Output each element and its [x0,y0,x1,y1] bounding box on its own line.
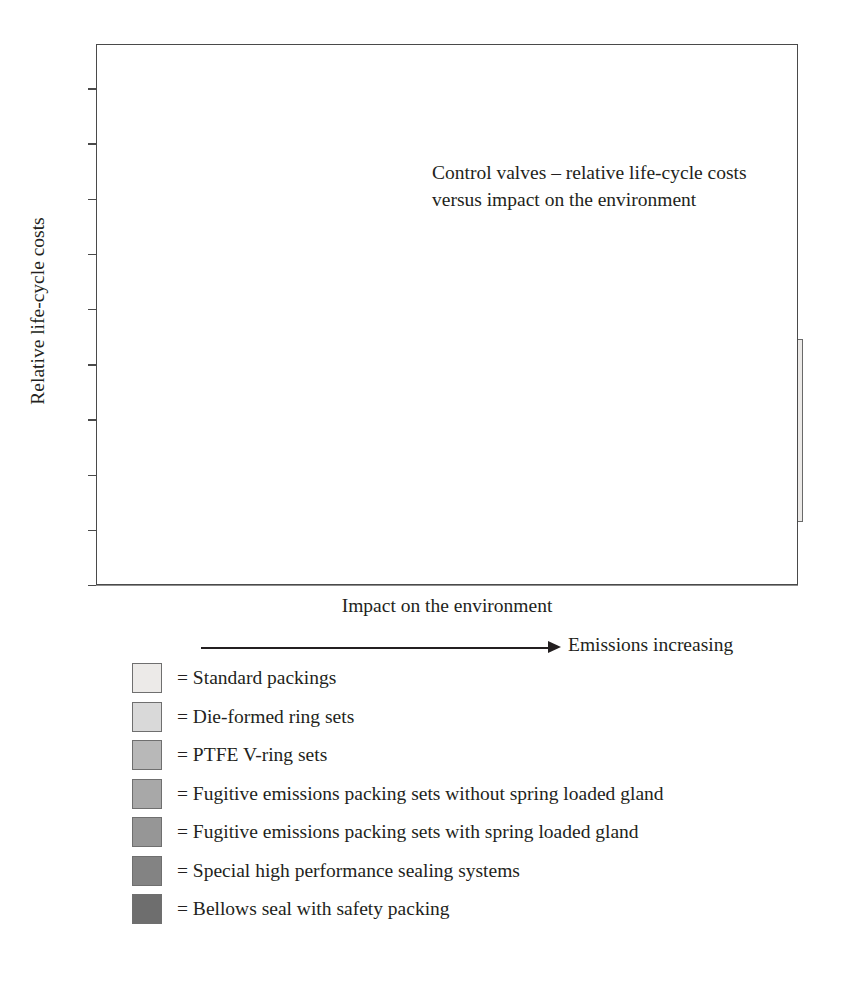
legend-swatch [132,779,162,809]
y-tick-mark [88,364,96,365]
legend-item: = Standard packings [132,660,832,699]
legend-label: = Standard packings [177,664,336,692]
legend-item: = PTFE V-ring sets [132,737,832,776]
legend-item: = Bellows seal with safety packing [132,891,832,930]
legend-swatch [132,663,162,693]
y-tick-mark [88,254,96,255]
arrow-head-icon [548,641,561,653]
x-axis-title: Impact on the environment [96,595,798,617]
legend-item: = Die-formed ring sets [132,699,832,738]
chart-page: Relative life-cycle costs 0123456789 Con… [0,0,843,988]
legend-swatch [132,856,162,886]
plot-area: Control valves – relative life-cycle cos… [96,44,798,585]
chart-title: Control valves – relative life-cycle cos… [432,159,832,213]
chart-title-line-1: Control valves – relative life-cycle cos… [432,159,832,186]
y-tick-mark [88,199,96,200]
legend-swatch [132,817,162,847]
y-tick-mark [88,88,96,89]
legend-item: = Fugitive emissions packing sets with s… [132,814,832,853]
gridline-horizontal [96,585,798,586]
arrow-label: Emissions increasing [568,634,733,656]
legend-label: = Die-formed ring sets [177,703,354,731]
y-axis-ticks: 0123456789 [0,0,96,988]
legend-swatch [132,702,162,732]
chart-title-line-2: versus impact on the environment [432,186,832,213]
legend-label: = Fugitive emissions packing sets withou… [177,780,664,808]
y-tick-mark [88,143,96,144]
legend-item: = Fugitive emissions packing sets withou… [132,776,832,815]
legend-label: = Special high performance sealing syste… [177,857,520,885]
arrow-line-icon [201,647,553,649]
y-tick-mark [88,419,96,420]
legend-label: = Bellows seal with safety packing [177,895,450,923]
legend: = Standard packings= Die-formed ring set… [132,660,832,930]
legend-label: = PTFE V-ring sets [177,741,327,769]
y-tick-mark [88,530,96,531]
y-tick-mark [88,475,96,476]
legend-swatch [132,894,162,924]
legend-item: = Special high performance sealing syste… [132,853,832,892]
plot-frame [96,44,798,585]
legend-swatch [132,740,162,770]
y-tick-mark [88,309,96,310]
legend-label: = Fugitive emissions packing sets with s… [177,818,639,846]
y-tick-mark [88,585,96,586]
emissions-arrow-annotation: Emissions increasing [96,634,798,662]
